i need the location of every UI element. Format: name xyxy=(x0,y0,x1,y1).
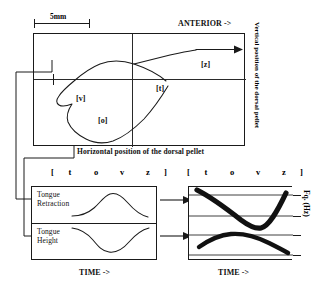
trajectory-curve xyxy=(34,34,246,147)
kinematic-traces-panel: Tongue Retraction Tongue Height xyxy=(31,186,157,260)
figure-root: 5mm ANTERIOR -> [t] [z] [v] [o] Vertical… xyxy=(0,0,328,290)
vertical-position-axis-label: Vertical position of the dorsal pellet xyxy=(253,22,261,152)
label-o: [o] xyxy=(98,116,108,125)
frequency-tick-1 xyxy=(293,195,301,196)
frequency-axis-label: Fq. (Hz) xyxy=(302,190,311,217)
phonetic-open-bracket: [ xyxy=(184,167,193,177)
scale-bar-label: 5mm xyxy=(50,12,66,21)
frequency-tick-3 xyxy=(293,235,301,236)
scale-bar-line xyxy=(34,23,90,24)
phonetic-transcription-kinematic: [ t o v z ] xyxy=(48,167,170,177)
scale-bar-cap-right xyxy=(89,19,90,28)
phonetic-open-bracket: [ xyxy=(48,167,57,177)
label-v: [v] xyxy=(76,94,86,103)
phonetic-segment-v: v xyxy=(109,167,135,177)
horizontal-position-axis-label: Horizontal position of the dorsal pellet xyxy=(77,148,204,157)
acoustic-time-axis-label: TIME -> xyxy=(218,268,249,277)
tongue-height-label-line2: Height xyxy=(37,237,58,246)
formant-tracks xyxy=(189,187,293,261)
tongue-retraction-label-line2: Retraction xyxy=(37,200,69,209)
frequency-tick-4 xyxy=(293,255,301,256)
phonetic-segment-z: z xyxy=(271,167,297,177)
formant-tracks-panel xyxy=(188,186,292,260)
phonetic-segment-t: t xyxy=(57,167,83,177)
phonetic-close-bracket: ] xyxy=(297,167,306,177)
label-t: [t] xyxy=(156,84,164,93)
phonetic-transcription-acoustic: [ t o v z ] xyxy=(184,167,306,177)
phonetic-close-bracket: ] xyxy=(161,167,170,177)
phonetic-segment-v: v xyxy=(245,167,271,177)
phonetic-segment-o: o xyxy=(219,167,245,177)
phonetic-segment-o: o xyxy=(83,167,109,177)
scale-bar-cap-left xyxy=(34,19,35,28)
anterior-direction-label: ANTERIOR -> xyxy=(178,19,231,28)
kinematic-time-axis-label: TIME -> xyxy=(79,268,110,277)
scale-bar: 5mm xyxy=(34,14,90,26)
dorsal-pellet-trajectory-panel: [t] [z] [v] [o] xyxy=(33,33,245,146)
frequency-tick-2 xyxy=(293,216,301,217)
phonetic-segment-t: t xyxy=(193,167,219,177)
phonetic-segment-z: z xyxy=(135,167,161,177)
label-z: [z] xyxy=(201,60,210,69)
